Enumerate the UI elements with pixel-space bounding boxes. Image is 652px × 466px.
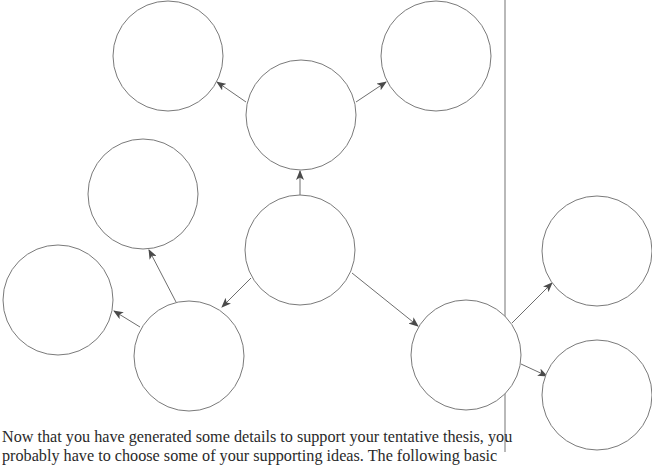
- circle-bottom-left: [134, 301, 244, 411]
- circle-middle-left: [88, 139, 198, 249]
- arrow-center-to-bottom-right: [352, 273, 418, 326]
- circle-bottom-right: [411, 300, 521, 410]
- circles-layer: [3, 1, 652, 450]
- arrow-bottom-right-to-right-upper: [512, 283, 552, 323]
- paragraph-line-1: Now that you have generated some details…: [2, 428, 502, 447]
- arrow-bottom-left-to-far-left: [114, 311, 140, 327]
- arrow-center-to-bottom-left: [222, 278, 251, 307]
- circle-top-left: [113, 1, 223, 111]
- circle-center: [245, 195, 355, 305]
- arrow-bottom-left-to-middle-left: [149, 250, 176, 302]
- circle-top-right: [381, 1, 491, 111]
- circle-right-lower: [542, 340, 652, 450]
- circle-right-upper: [542, 196, 652, 306]
- circle-top-middle: [246, 60, 356, 170]
- circle-far-left: [3, 245, 113, 355]
- arrow-top-middle-to-top-left: [217, 82, 246, 102]
- paragraph-line-2: probably have to choose some of your sup…: [2, 447, 502, 466]
- body-paragraph: Now that you have generated some details…: [2, 428, 502, 466]
- arrow-bottom-right-to-right-lower: [521, 364, 547, 376]
- arrow-top-middle-to-top-right: [356, 82, 386, 102]
